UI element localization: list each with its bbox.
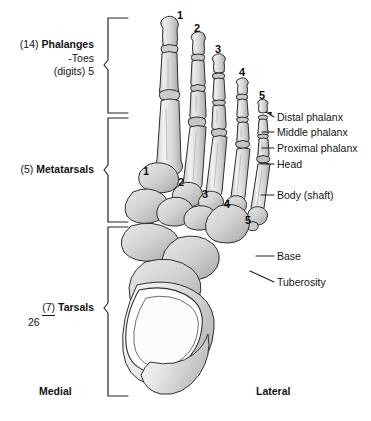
metatarsals-count: (5) (20, 163, 33, 175)
group-label-metatarsals: (5) Metatarsals (4, 163, 94, 177)
bones-total: 26 (14, 316, 94, 330)
metatarsal-number-2: 2 (178, 176, 184, 188)
group-label-phalanges: (14) Phalanges -Toes (digits) 5 (8, 38, 94, 79)
toe-number-3: 3 (215, 43, 221, 55)
tarsals-name: Tarsals (58, 301, 94, 313)
metatarsal-number-1: 1 (143, 165, 149, 177)
label-distal-phalanx: Distal phalanx (277, 111, 343, 124)
toe-number-2: 2 (194, 22, 200, 34)
toe-number-4: 4 (239, 66, 245, 78)
phalanges-sub1: -Toes (8, 52, 94, 66)
metatarsals-name: Metatarsals (36, 163, 94, 175)
orientation-medial: Medial (39, 385, 72, 397)
label-head: Head (277, 158, 302, 171)
label-body-shaft: Body (shaft) (277, 189, 334, 202)
label-tuberosity: Tuberosity (277, 276, 326, 289)
toe-number-1: 1 (177, 9, 183, 21)
metatarsal-number-3: 3 (202, 188, 208, 200)
phalanges-name: Phalanges (41, 38, 94, 50)
metatarsal-number-5: 5 (245, 214, 251, 226)
label-middle-phalanx: Middle phalanx (277, 126, 348, 139)
toe-number-5: 5 (259, 89, 265, 101)
tarsals-count: (7) (42, 301, 55, 316)
group-label-tarsals: (7) Tarsals 26 (14, 301, 94, 329)
label-proximal-phalanx: Proximal phalanx (277, 142, 358, 155)
phalanges-sub2: (digits) 5 (8, 65, 94, 79)
label-base: Base (277, 250, 301, 263)
orientation-lateral: Lateral (256, 385, 290, 397)
phalanges-count: (14) (20, 38, 39, 50)
metatarsal-number-4: 4 (224, 198, 230, 210)
figure-canvas: (14) Phalanges -Toes (digits) 5 (5) Meta… (0, 0, 371, 421)
